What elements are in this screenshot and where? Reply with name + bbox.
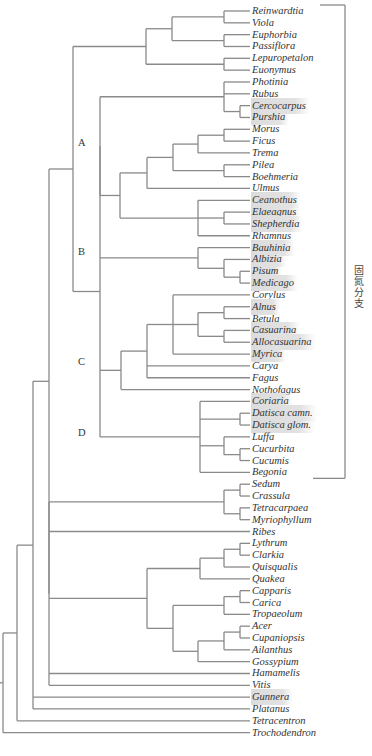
- clade-label-a: A: [78, 137, 86, 148]
- clade-label-d: D: [78, 427, 86, 438]
- clade-label-c: C: [78, 356, 85, 367]
- taxon-label: Trochodendron: [251, 725, 320, 741]
- clade-label-b: B: [78, 246, 85, 257]
- phylogenetic-tree: [0, 0, 372, 756]
- nitrogen-fixing-clade-label: 固氮分支: [351, 265, 365, 309]
